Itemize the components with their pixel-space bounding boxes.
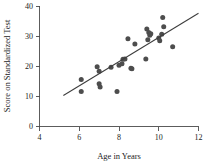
data-point bbox=[115, 89, 120, 94]
data-point bbox=[145, 37, 150, 42]
data-points bbox=[79, 15, 175, 94]
data-point bbox=[157, 38, 162, 43]
y-tick-label: 0 bbox=[29, 122, 33, 131]
data-point bbox=[148, 31, 153, 36]
y-axis-title: Score on Standardized Test bbox=[2, 19, 12, 112]
data-point bbox=[95, 64, 100, 69]
x-tick-label: 6 bbox=[77, 133, 81, 142]
y-axis: 010203040 bbox=[25, 2, 40, 132]
data-point bbox=[132, 41, 137, 46]
y-tick-label: 40 bbox=[25, 2, 33, 11]
x-axis: 4681012 bbox=[38, 127, 203, 143]
x-tick-label: 12 bbox=[195, 133, 203, 142]
x-tick-label: 10 bbox=[155, 133, 163, 142]
data-point bbox=[143, 57, 148, 62]
y-tick-label: 20 bbox=[25, 62, 33, 71]
data-point bbox=[119, 61, 124, 66]
data-point bbox=[79, 89, 84, 94]
y-tick-label: 30 bbox=[25, 32, 33, 41]
data-point bbox=[170, 44, 175, 49]
data-point bbox=[160, 15, 165, 20]
data-point bbox=[161, 24, 166, 29]
plot-canvas: 010203040 4681012 Age in Years Score on … bbox=[0, 0, 214, 164]
regression-line bbox=[63, 13, 198, 95]
x-axis-ticks bbox=[40, 127, 199, 131]
y-axis-ticks bbox=[36, 6, 40, 127]
data-point bbox=[79, 77, 84, 82]
y-tick-label: 10 bbox=[25, 92, 33, 101]
x-axis-title: Age in Years bbox=[97, 151, 141, 161]
data-point bbox=[98, 85, 103, 90]
scatter-plot-figure: 010203040 4681012 Age in Years Score on … bbox=[0, 0, 214, 164]
data-point bbox=[129, 66, 134, 71]
x-tick-label: 4 bbox=[38, 133, 42, 142]
y-axis-tick-labels: 010203040 bbox=[25, 2, 33, 132]
data-point bbox=[125, 36, 130, 41]
x-axis-tick-labels: 4681012 bbox=[38, 133, 203, 142]
x-tick-label: 8 bbox=[117, 133, 121, 142]
